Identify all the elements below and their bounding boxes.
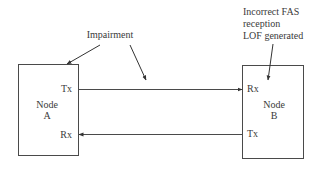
node-b-note-line1: Incorrect FAS xyxy=(243,6,299,17)
impairment-arrow-to-link xyxy=(130,45,146,80)
node-b-label-line2: B xyxy=(271,110,278,121)
node-b-note-line3: LOF generated xyxy=(243,30,303,41)
node-b-tx-label: Tx xyxy=(247,128,258,139)
node-b-label-line1: Node xyxy=(263,99,285,110)
node-a-label-line1: Node xyxy=(36,99,58,110)
node-a-rx-label: Rx xyxy=(60,129,72,140)
node-b: Rx Node B Tx xyxy=(243,66,304,159)
node-b-rx-label: Rx xyxy=(247,83,259,94)
node-a-tx-label: Tx xyxy=(61,83,72,94)
impairment-label: Impairment xyxy=(87,29,134,40)
node-a-label-line2: A xyxy=(43,110,51,121)
diagram-canvas: Tx Node A Rx Rx Node B Tx Impairment Inc… xyxy=(0,0,324,173)
node-b-note-line2: reception xyxy=(243,18,280,29)
impairment-arrow-to-node-a xyxy=(67,45,100,64)
lof-arrow-to-node-b xyxy=(268,44,273,80)
node-a: Tx Node A Rx xyxy=(19,65,79,156)
